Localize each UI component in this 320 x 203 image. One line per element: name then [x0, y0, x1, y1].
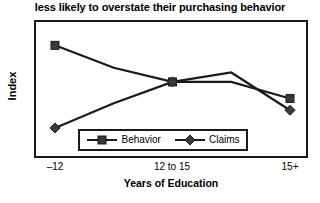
- chart-figure: less likely to overstate their purchasin…: [0, 0, 320, 203]
- x-tick-label-1: 12 to 15: [154, 161, 190, 172]
- legend-entry-behavior: Behavior: [86, 134, 160, 146]
- series-claims: [50, 72, 295, 132]
- y-axis-label: Index: [6, 56, 18, 116]
- series-behavior: [51, 41, 294, 102]
- series-layer: [50, 41, 295, 133]
- diamond-marker-icon: [174, 134, 206, 146]
- data-point-marker: [51, 41, 59, 49]
- legend-label-claims: Claims: [209, 135, 240, 145]
- square-marker-icon: [86, 134, 118, 146]
- series-line: [55, 45, 290, 98]
- chart-title: less likely to overstate their purchasin…: [0, 1, 320, 14]
- data-point-marker: [286, 94, 294, 102]
- x-tick-label-2: 15+: [282, 161, 299, 172]
- x-axis-label: Years of Education: [34, 177, 308, 189]
- legend-label-behavior: Behavior: [121, 135, 160, 145]
- legend-entry-claims: Claims: [174, 134, 240, 146]
- x-tick-label-0: –12: [47, 161, 64, 172]
- data-point-marker: [50, 123, 60, 133]
- chart-legend: Behavior Claims: [78, 129, 248, 151]
